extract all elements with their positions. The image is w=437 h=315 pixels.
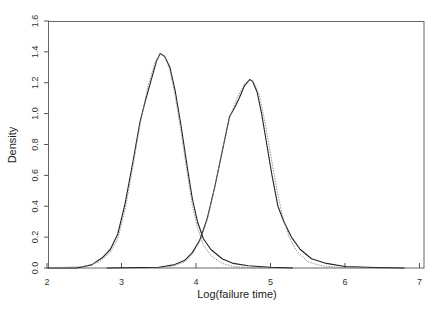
series-line-group-2-empirical <box>107 80 405 268</box>
y-tick-label: 0.2 <box>30 231 40 244</box>
x-tick-label: 5 <box>268 277 273 287</box>
x-tick-label: 7 <box>417 277 422 287</box>
y-axis: 0.00.20.40.60.81.01.21.41.6 <box>30 15 49 275</box>
y-tick-label: 1.2 <box>30 76 40 89</box>
x-tick-label: 4 <box>193 277 198 287</box>
y-tick-label: 1.4 <box>30 46 40 59</box>
y-tick-label: 1.6 <box>30 15 40 28</box>
series-line-group-1-fitted <box>47 53 271 268</box>
density-chart: 0.00.20.40.60.81.01.21.41.6 234567 Log(f… <box>0 0 437 315</box>
x-tick-label: 6 <box>342 277 347 287</box>
series-line-group-2-fitted <box>159 80 367 268</box>
y-tick-label: 0.6 <box>30 169 40 182</box>
x-tick-label: 2 <box>44 277 49 287</box>
x-tick-label: 3 <box>119 277 124 287</box>
plot-frame <box>49 22 425 269</box>
x-axis-label: Log(failure time) <box>197 288 276 300</box>
series-line-group-1-empirical <box>47 53 293 268</box>
y-tick-label: 0.4 <box>30 200 40 213</box>
y-tick-label: 0.0 <box>30 262 40 275</box>
y-tick-label: 0.8 <box>30 138 40 151</box>
y-tick-label: 1.0 <box>30 107 40 120</box>
y-axis-label: Density <box>6 126 18 163</box>
plot-area <box>47 53 405 268</box>
